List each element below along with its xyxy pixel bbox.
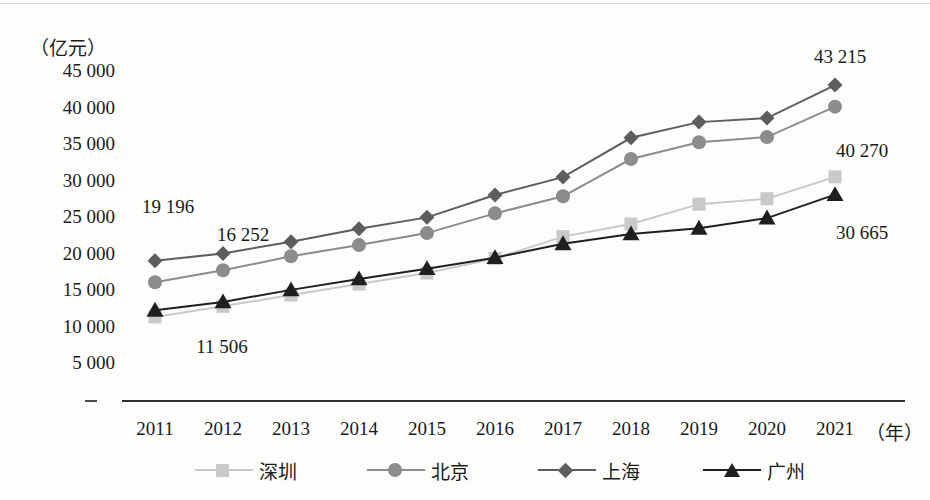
x-axis-tick-label: 2018 — [612, 418, 650, 440]
x-axis-unit-label: （年） — [866, 418, 923, 445]
square-marker-icon — [216, 464, 229, 477]
diamond-marker-icon — [420, 210, 435, 225]
circle-marker-icon — [624, 152, 638, 166]
legend-line — [538, 463, 596, 477]
x-axis-tick-label: 2015 — [408, 418, 446, 440]
legend-item-北京[interactable]: 北京 — [367, 455, 469, 485]
circle-marker-icon — [828, 100, 842, 114]
square-marker-icon — [761, 192, 774, 205]
diamond-marker-icon — [828, 78, 843, 93]
diamond-marker-icon — [352, 221, 367, 236]
legend-marker-shape — [558, 463, 574, 479]
diamond-marker-icon — [556, 170, 571, 185]
diamond-marker-icon — [559, 464, 571, 476]
series-广州 — [147, 186, 844, 317]
chart-page: （亿元） 45 00040 00035 00030 00025 00020 00… — [0, 0, 930, 500]
legend-marker-shape — [388, 463, 402, 477]
legend-marker-shape — [724, 463, 740, 477]
data-label: 16 252 — [217, 224, 269, 246]
legend-item-深圳[interactable]: 深圳 — [195, 455, 297, 485]
legend-item-上海[interactable]: 上海 — [538, 455, 640, 485]
diamond-marker-icon — [760, 111, 775, 126]
diamond-marker-icon — [692, 115, 707, 130]
data-label: 11 506 — [196, 336, 248, 358]
legend-line — [367, 463, 425, 477]
diamond-marker-icon — [216, 246, 231, 261]
x-axis-tick-label: 2020 — [748, 418, 786, 440]
triangle-marker-icon — [724, 463, 740, 477]
diamond-marker-icon — [488, 188, 503, 203]
circle-marker-icon — [388, 463, 402, 477]
circle-marker-icon — [352, 238, 366, 252]
legend-line — [195, 463, 253, 477]
square-marker-icon — [829, 170, 842, 183]
data-label: 43 215 — [814, 46, 866, 68]
circle-marker-icon — [148, 275, 162, 289]
circle-marker-icon — [488, 206, 502, 220]
circle-marker-icon — [556, 189, 570, 203]
legend-label: 深圳 — [259, 457, 297, 484]
x-axis-tick-label: 2013 — [272, 418, 310, 440]
legend-label: 广州 — [767, 457, 805, 484]
x-axis-tick-label: 2021 — [816, 418, 854, 440]
triangle-marker-icon — [827, 186, 844, 201]
circle-marker-icon — [284, 249, 298, 263]
data-label: 30 665 — [836, 222, 888, 244]
data-label: 40 270 — [836, 140, 888, 162]
diamond-marker-icon — [148, 253, 163, 268]
legend-marker-shape — [216, 464, 229, 477]
x-axis-tick-label: 2019 — [680, 418, 718, 440]
x-axis-tick-label: 2014 — [340, 418, 378, 440]
legend-line — [703, 463, 761, 477]
x-axis-tick-label: 2017 — [544, 418, 582, 440]
legend-label: 上海 — [602, 457, 640, 484]
circle-marker-icon — [692, 135, 706, 149]
x-axis-tick-label: 2012 — [204, 418, 242, 440]
chart-legend: 深圳北京上海广州 — [120, 455, 910, 491]
circle-marker-icon — [420, 226, 434, 240]
legend-label: 北京 — [431, 457, 469, 484]
circle-marker-icon — [216, 263, 230, 277]
diamond-marker-icon — [624, 130, 639, 145]
square-marker-icon — [693, 198, 706, 211]
circle-marker-icon — [760, 130, 774, 144]
x-axis-tick-label: 2011 — [136, 418, 173, 440]
legend-item-广州[interactable]: 广州 — [703, 455, 805, 485]
diamond-marker-icon — [284, 234, 299, 249]
data-label: 19 196 — [142, 196, 194, 218]
x-axis-tick-label: 2016 — [476, 418, 514, 440]
